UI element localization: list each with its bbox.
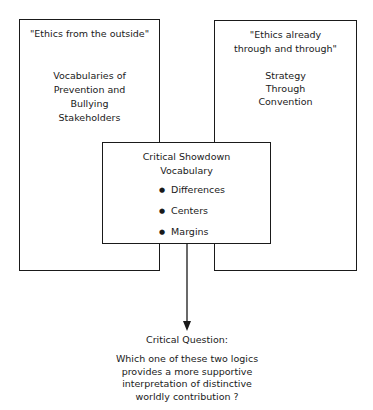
center-box-title-line: Vocabulary: [102, 164, 271, 178]
right-box-body: Strategy Through Convention: [214, 69, 357, 108]
left-box-body-line: Prevention and: [19, 83, 160, 97]
critical-question-text: Which one of these two logics provides a…: [77, 353, 297, 403]
critical-question-line: interpretation of distinctive: [77, 378, 297, 391]
right-box-body-line: Convention: [214, 95, 357, 108]
bullet-item: Centers: [159, 201, 225, 222]
critical-question-line: worldly contribution ?: [77, 391, 297, 404]
critical-question-line: provides a more supportive: [77, 366, 297, 379]
critical-question-label-text: Critical Question:: [87, 334, 287, 346]
critical-question-label: Critical Question:: [87, 334, 287, 346]
right-box-heading: "Ethics already through and through": [214, 28, 357, 56]
critical-question-line: Which one of these two logics: [77, 353, 297, 366]
bullet-item: Margins: [159, 222, 225, 243]
left-box-body-line: Bullying: [19, 97, 160, 111]
right-box-body-line: Strategy: [214, 69, 357, 82]
right-box-heading-line: through and through": [214, 42, 357, 56]
left-box-body-line: Vocabularies of: [19, 69, 160, 83]
left-box-body-line: Stakeholders: [19, 111, 160, 125]
left-box-heading: "Ethics from the outside": [19, 28, 160, 40]
bullet-item: Differences: [159, 180, 225, 201]
center-box-title-line: Critical Showdown: [102, 150, 271, 164]
right-box-body-line: Through: [214, 82, 357, 95]
center-box-title: Critical Showdown Vocabulary: [102, 150, 271, 178]
center-box-bullets: Differences Centers Margins: [159, 180, 225, 243]
left-box-heading-text: "Ethics from the outside": [19, 28, 160, 40]
right-box-heading-line: "Ethics already: [214, 28, 357, 42]
left-box-body: Vocabularies of Prevention and Bullying …: [19, 69, 160, 125]
down-arrow-icon: [180, 243, 194, 333]
